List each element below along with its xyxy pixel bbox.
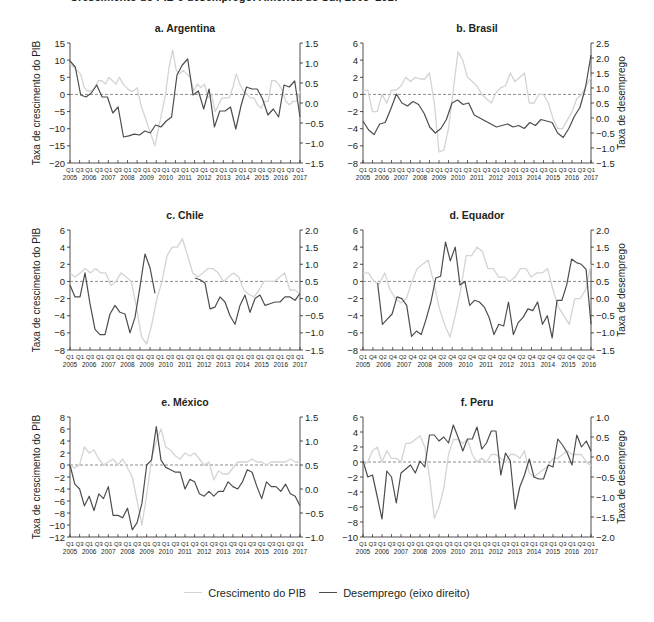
- svg-text:Q1: Q1: [143, 541, 152, 547]
- chart-title: f. Peru: [461, 396, 494, 408]
- svg-text:Q3: Q3: [387, 167, 396, 173]
- svg-text:Taxa de crescimento do PIB: Taxa de crescimento do PIB: [31, 227, 42, 352]
- svg-text:Q1: Q1: [66, 167, 75, 173]
- svg-text:−6: −6: [347, 140, 358, 151]
- svg-text:Q1: Q1: [530, 167, 539, 173]
- svg-text:−2: −2: [347, 293, 358, 304]
- svg-text:−10: −10: [49, 520, 65, 531]
- legend-swatch-unemployment: [319, 592, 337, 593]
- svg-text:2014: 2014: [541, 361, 556, 368]
- svg-text:Q3: Q3: [133, 541, 142, 547]
- svg-text:Q2: Q2: [537, 354, 546, 360]
- svg-text:2012: 2012: [197, 361, 212, 368]
- svg-text:2017: 2017: [293, 174, 308, 181]
- svg-text:Q3: Q3: [539, 541, 548, 547]
- svg-text:Taxa de crescimento do PIB: Taxa de crescimento do PIB: [31, 40, 42, 165]
- svg-text:2008: 2008: [413, 548, 428, 555]
- svg-text:Q1: Q1: [116, 354, 125, 360]
- svg-text:1.5: 1.5: [596, 242, 609, 253]
- svg-text:Q1: Q1: [104, 541, 113, 547]
- chart-title: b. Brasil: [456, 22, 498, 34]
- svg-text:2016: 2016: [565, 174, 580, 181]
- svg-text:2005: 2005: [356, 548, 371, 555]
- svg-text:2.5: 2.5: [596, 38, 609, 49]
- chart-panel-chile: c. Chile6420−2−4−6−82.01.51.00.50.0−0.5−…: [0, 205, 327, 390]
- svg-text:2008: 2008: [120, 548, 135, 555]
- gdp-growth-line: [70, 50, 300, 146]
- svg-text:Q3: Q3: [229, 167, 238, 173]
- svg-text:2011: 2011: [178, 548, 192, 555]
- chart-svg-equador: d. Equador6420−2−4−6−82.01.51.00.50.0−0.…: [327, 205, 654, 390]
- svg-text:−20: −20: [49, 158, 65, 169]
- svg-text:Q3: Q3: [76, 541, 85, 547]
- svg-text:Q1: Q1: [378, 167, 387, 173]
- svg-text:Q3: Q3: [229, 541, 238, 547]
- unemployment-line: [70, 427, 300, 530]
- svg-text:2: 2: [353, 72, 358, 83]
- svg-text:2007: 2007: [394, 548, 409, 555]
- svg-text:−8: −8: [347, 517, 358, 528]
- svg-text:−4: −4: [54, 310, 65, 321]
- svg-text:Q1: Q1: [104, 167, 113, 173]
- svg-text:2012: 2012: [489, 174, 504, 181]
- chart-title: d. Equador: [450, 209, 505, 221]
- svg-text:0.0: 0.0: [305, 98, 318, 109]
- svg-text:2005: 2005: [63, 174, 78, 181]
- svg-text:Q1: Q1: [96, 354, 105, 360]
- svg-text:Q1: Q1: [200, 167, 209, 173]
- svg-text:Q3: Q3: [86, 354, 95, 360]
- svg-text:0.5: 0.5: [596, 98, 609, 109]
- legend-label-gdp: Crescimento do PIB: [208, 587, 306, 599]
- chart-svg-argentina: a. Argentina151050−5−10−15−201.51.00.50.…: [0, 18, 327, 203]
- svg-text:Q1: Q1: [568, 167, 577, 173]
- svg-text:−4: −4: [54, 484, 65, 495]
- svg-text:Q1: Q1: [587, 541, 596, 547]
- svg-text:2015: 2015: [254, 361, 269, 368]
- svg-text:2015: 2015: [254, 548, 269, 555]
- svg-text:0.0: 0.0: [305, 484, 318, 495]
- svg-text:Q1: Q1: [219, 541, 228, 547]
- svg-text:Q3: Q3: [152, 541, 161, 547]
- svg-text:Q4: Q4: [587, 354, 596, 360]
- svg-text:2010: 2010: [451, 174, 466, 181]
- svg-text:1.5: 1.5: [305, 412, 318, 423]
- svg-text:Q1: Q1: [256, 354, 265, 360]
- svg-text:Q3: Q3: [387, 541, 396, 547]
- svg-text:Q1: Q1: [66, 541, 75, 547]
- svg-text:−2: −2: [54, 293, 65, 304]
- svg-text:2007: 2007: [101, 174, 116, 181]
- svg-text:2013: 2013: [216, 361, 231, 368]
- svg-text:10: 10: [54, 55, 65, 66]
- svg-text:Q4: Q4: [409, 354, 418, 360]
- svg-text:Q1: Q1: [454, 167, 463, 173]
- svg-text:2006: 2006: [375, 174, 390, 181]
- svg-text:2: 2: [60, 448, 65, 459]
- svg-text:Q1: Q1: [359, 541, 368, 547]
- gdp-growth-line: [363, 247, 591, 337]
- chart-svg-brasil: b. Brasil6420−2−4−6−82.52.01.51.00.50.0−…: [327, 18, 654, 203]
- svg-text:8: 8: [60, 412, 65, 423]
- svg-text:2005: 2005: [63, 548, 78, 555]
- unemployment-line: [70, 254, 300, 335]
- svg-text:−1.5: −1.5: [596, 345, 615, 356]
- svg-text:0.5: 0.5: [305, 276, 318, 287]
- svg-text:0: 0: [353, 89, 358, 100]
- svg-text:Q1: Q1: [85, 541, 94, 547]
- svg-text:−4: −4: [347, 310, 358, 321]
- svg-text:2009: 2009: [432, 548, 447, 555]
- svg-text:2: 2: [353, 442, 358, 453]
- svg-text:2.0: 2.0: [305, 225, 318, 236]
- svg-text:Q3: Q3: [425, 541, 434, 547]
- svg-text:Q3: Q3: [95, 167, 104, 173]
- svg-text:Q3: Q3: [425, 167, 434, 173]
- svg-text:Q1: Q1: [568, 541, 577, 547]
- svg-text:2010: 2010: [451, 548, 466, 555]
- unemployment-line: [363, 425, 591, 519]
- svg-text:Q1: Q1: [277, 167, 286, 173]
- svg-text:Taxa de desemprego: Taxa de desemprego: [616, 430, 627, 524]
- svg-text:Q2: Q2: [458, 354, 467, 360]
- svg-text:2014: 2014: [527, 174, 542, 181]
- svg-text:Q4: Q4: [528, 354, 537, 360]
- svg-text:Q3: Q3: [501, 167, 510, 173]
- svg-text:−6: −6: [54, 496, 65, 507]
